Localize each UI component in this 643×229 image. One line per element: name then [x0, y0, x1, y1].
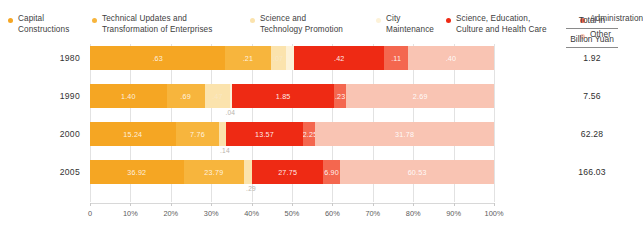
row-year-label: 1990 [18, 91, 80, 101]
axis-tick [90, 203, 91, 206]
legend-item-3[interactable]: City Maintenance [376, 14, 438, 35]
segment-callout-label: .04 [225, 109, 235, 116]
total-header-line1: Total in [566, 13, 618, 29]
x-axis: 010%20%30%40%50%60%70%80%90%100% [90, 203, 494, 223]
legend-dot-icon [92, 18, 97, 23]
axis-tick [171, 203, 172, 206]
bar-segment[interactable]: 1.85 [232, 84, 333, 108]
legend-label: Technical Updates and Transformation of … [102, 14, 212, 35]
axis-tick [292, 203, 293, 206]
legend-dot-icon [250, 18, 255, 23]
bar-segment[interactable]: 36.92 [90, 160, 184, 184]
axis-tick [413, 203, 414, 206]
bar-row: 1.40.69.471.85.232.69 [90, 84, 494, 108]
bar-segment[interactable]: 27.75 [252, 160, 322, 184]
bar-segment[interactable]: 6.90 [323, 160, 341, 184]
axis-tick [332, 203, 333, 206]
bar-segment[interactable]: 23.79 [184, 160, 244, 184]
bar-segment[interactable]: .63 [90, 46, 225, 70]
segment-callout-label: .29 [246, 185, 256, 192]
segment-value-label: .07 [271, 54, 286, 63]
segment-value-label: .21 [225, 54, 270, 63]
segment-value-label: .63 [90, 54, 225, 63]
row-total-value: 62.28 [566, 129, 618, 139]
legend-label: City Maintenance [386, 14, 434, 35]
bar-segment[interactable]: .42 [294, 46, 384, 70]
bar-segment[interactable] [244, 160, 252, 184]
axis-tick-label: 0 [88, 209, 92, 218]
bar-segment[interactable]: 1.40 [90, 84, 167, 108]
bar-segment[interactable]: .21 [225, 46, 270, 70]
legend-dot-icon [376, 18, 381, 23]
segment-value-label: .11 [384, 54, 408, 63]
segment-value-label: 7.76 [176, 130, 220, 139]
bar-row: 36.9223.7927.756.9060.53 [90, 160, 494, 184]
legend-item-4[interactable]: Science, Education, Culture and Health C… [446, 14, 574, 35]
segment-value-label: 2.69 [346, 92, 493, 101]
gridline [494, 44, 495, 202]
segment-value-label: .69 [167, 92, 205, 101]
axis-tick-label: 80% [406, 209, 421, 218]
legend-item-1[interactable]: Technical Updates and Transformation of … [92, 14, 240, 35]
bar-rows: .63.21.07.42.11.401.40.69.471.85.232.691… [90, 44, 494, 202]
axis-tick-label: 40% [244, 209, 259, 218]
total-header-line2: Billion Yuan [566, 32, 618, 48]
segment-value-label: 2.25 [303, 130, 316, 139]
bar-segment[interactable]: .69 [167, 84, 205, 108]
legend-item-2[interactable]: Science and Technology Promotion [250, 14, 368, 35]
bar-segment[interactable]: .47 [205, 84, 231, 108]
segment-value-label: 60.53 [340, 168, 494, 177]
axis-tick [252, 203, 253, 206]
axis-tick [130, 203, 131, 206]
row-total-value: 7.56 [566, 91, 618, 101]
row-total-value: 166.03 [566, 167, 618, 177]
plot-area: .63.21.07.42.11.401.40.69.471.85.232.691… [90, 44, 494, 202]
segment-value-label: 15.24 [90, 130, 176, 139]
bar-segment[interactable]: 7.76 [176, 122, 220, 146]
segment-value-label: 31.78 [315, 130, 494, 139]
segment-value-label: 27.75 [252, 168, 322, 177]
row-year-label: 2000 [18, 129, 80, 139]
segment-value-label: 1.85 [232, 92, 333, 101]
total-column-header: Total in Billion Yuan [566, 13, 618, 48]
row-year-label: 1980 [18, 53, 80, 63]
legend-dot-icon [446, 18, 451, 23]
legend-label: Capital Constructions [18, 14, 69, 35]
axis-tick-label: 10% [123, 209, 138, 218]
bar-segment[interactable]: 2.69 [346, 84, 493, 108]
axis-tick-label: 50% [285, 209, 300, 218]
axis-tick-label: 100% [485, 209, 504, 218]
axis-tick [454, 203, 455, 206]
segment-value-label: .40 [408, 54, 494, 63]
bar-row: .63.21.07.42.11.40 [90, 46, 494, 70]
row-year-label: 2005 [18, 167, 80, 177]
bar-segment[interactable]: 2.25 [303, 122, 316, 146]
segment-value-label: .23 [334, 92, 347, 101]
segment-value-label: 6.90 [323, 168, 341, 177]
bar-segment[interactable]: .11 [384, 46, 408, 70]
axis-tick [373, 203, 374, 206]
bar-segment[interactable]: 15.24 [90, 122, 176, 146]
axis-tick-label: 30% [204, 209, 219, 218]
bar-segment[interactable]: .23 [334, 84, 347, 108]
bar-segment[interactable]: 60.53 [340, 160, 494, 184]
segment-value-label: 13.57 [226, 130, 302, 139]
legend-item-0[interactable]: Capital Constructions [8, 14, 80, 35]
bar-segment[interactable] [286, 46, 295, 70]
bar-segment[interactable]: .40 [408, 46, 494, 70]
segment-callout-label: .14 [220, 147, 230, 154]
bar-segment[interactable]: 13.57 [226, 122, 302, 146]
axis-tick-label: 60% [325, 209, 340, 218]
axis-tick [211, 203, 212, 206]
chart-legend: Capital ConstructionsTechnical Updates a… [8, 14, 568, 44]
bar-row: 15.247.7613.572.2531.78 [90, 122, 494, 146]
row-total-value: 1.92 [566, 53, 618, 63]
segment-value-label: 23.79 [184, 168, 244, 177]
segment-value-label: 1.40 [90, 92, 167, 101]
legend-label: Science and Technology Promotion [260, 14, 343, 35]
bar-segment[interactable]: .07 [271, 46, 286, 70]
bar-segment[interactable]: 31.78 [315, 122, 494, 146]
segment-value-label: .47 [205, 92, 231, 101]
axis-tick-label: 20% [163, 209, 178, 218]
